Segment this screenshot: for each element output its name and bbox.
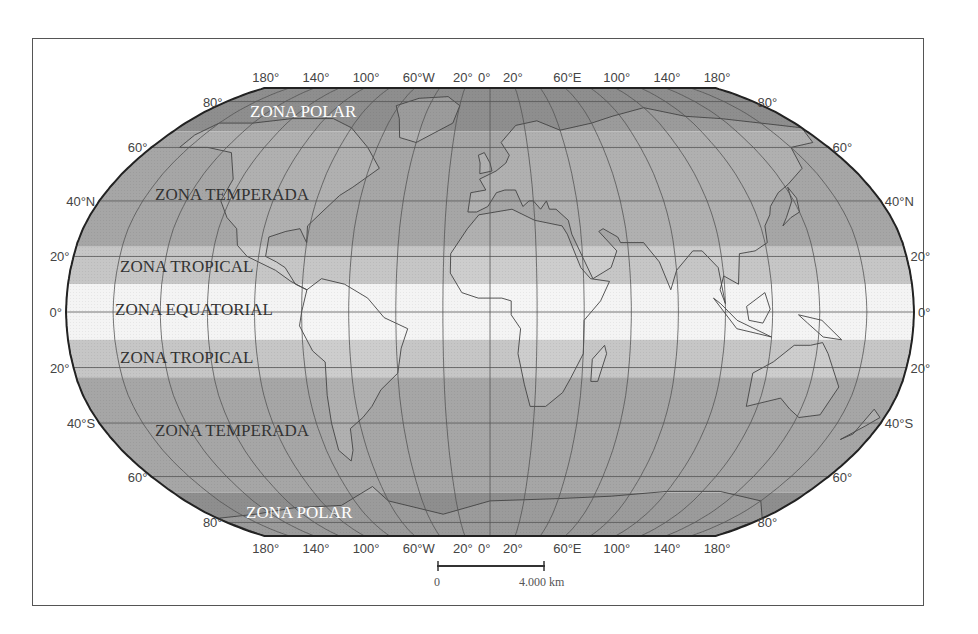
latitude-label: 80° <box>203 515 223 530</box>
latitude-label: 0° <box>918 305 930 320</box>
longitude-label: 100° <box>353 541 380 556</box>
latitude-label: 0° <box>50 305 62 320</box>
zone-label-temperate-north: ZONA TEMPERADA <box>155 185 310 204</box>
latitude-label: 20° <box>910 361 930 376</box>
latitude-label: 20° <box>50 361 70 376</box>
world-climate-zones-map: ZONA POLAR ZONA TEMPERADA ZONA TROPICAL … <box>0 0 978 634</box>
longitude-label: 140° <box>654 541 681 556</box>
latitude-label: 40°N <box>885 194 914 209</box>
scale-bar-end-label: 4.000 km <box>519 575 565 589</box>
longitude-label: 20° <box>503 541 523 556</box>
longitude-labels-bottom: 180°140°100°60°W20°0°20°60°E100°140°180° <box>252 541 730 556</box>
longitude-label: 100° <box>603 541 630 556</box>
latitude-label: 60° <box>128 140 148 155</box>
latitude-label: 60° <box>833 140 853 155</box>
longitude-label: 180° <box>252 70 279 85</box>
latitude-label: 20° <box>910 249 930 264</box>
latitude-label: 60° <box>128 470 148 485</box>
longitude-label: 60°E <box>553 70 582 85</box>
longitude-label: 20° <box>503 70 523 85</box>
longitude-label: 0° <box>478 70 490 85</box>
scale-bar: 0 4.000 km <box>434 561 565 589</box>
longitude-label: 60°E <box>553 541 582 556</box>
longitude-label: 20° <box>453 541 473 556</box>
longitude-label: 100° <box>353 70 380 85</box>
latitude-label: 80° <box>757 95 777 110</box>
latitude-label: 80° <box>203 95 223 110</box>
longitude-label: 180° <box>252 541 279 556</box>
longitude-label: 140° <box>302 70 329 85</box>
zone-label-equatorial: ZONA EQUATORIAL <box>115 300 273 319</box>
zone-label-polar-south: ZONA POLAR <box>246 503 353 522</box>
longitude-label: 0° <box>478 541 490 556</box>
zone-label-tropical-south: ZONA TROPICAL <box>120 348 253 367</box>
longitude-label: 60°W <box>403 541 436 556</box>
longitude-label: 20° <box>453 70 473 85</box>
longitude-label: 60°W <box>403 70 436 85</box>
latitude-label: 20° <box>50 249 70 264</box>
zone-label-polar-north: ZONA POLAR <box>250 102 357 121</box>
longitude-label: 180° <box>704 70 731 85</box>
latitude-label: 60° <box>833 470 853 485</box>
longitude-labels-top: 180°140°100°60°W20°0°20°60°E100°140°180° <box>252 70 730 85</box>
longitude-label: 180° <box>704 541 731 556</box>
latitude-label: 40°S <box>67 416 96 431</box>
scale-bar-start-label: 0 <box>434 575 440 589</box>
latitude-label: 40°N <box>66 194 95 209</box>
zone-label-temperate-south: ZONA TEMPERADA <box>155 421 310 440</box>
latitude-label: 80° <box>757 515 777 530</box>
longitude-label: 140° <box>654 70 681 85</box>
longitude-label: 100° <box>603 70 630 85</box>
longitude-label: 140° <box>302 541 329 556</box>
latitude-label: 40°S <box>885 416 914 431</box>
zone-label-tropical-north: ZONA TROPICAL <box>120 257 253 276</box>
